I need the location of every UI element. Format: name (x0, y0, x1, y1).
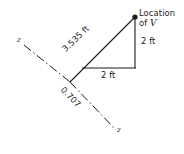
axis-label-upper: z (17, 37, 21, 45)
point-v-marker (132, 14, 137, 19)
point-v-label-prefix: of (139, 18, 150, 28)
vertical-leg-label: 2 ft (141, 37, 155, 46)
point-v-label-line2: of V (139, 18, 175, 28)
point-v-label-line1: Location (139, 9, 175, 18)
axis-label-lower: z (117, 127, 121, 135)
point-v-label: Location of V (139, 9, 175, 29)
point-v-symbol: V (150, 18, 157, 28)
diagram-figure: Location of V 2 ft 2 ft 3.535 ft 0.707 z… (0, 0, 184, 154)
horizontal-leg-label: 2 ft (101, 71, 115, 80)
